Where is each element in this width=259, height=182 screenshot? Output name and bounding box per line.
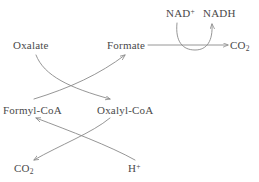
- node-formate: Formate: [107, 40, 145, 51]
- node-nad-plus: NAD+: [166, 8, 195, 19]
- arrow-layer: [0, 0, 259, 182]
- node-oxalyl-coa: Oxalyl-CoA: [97, 105, 153, 116]
- edge-oxalyl-coa-to-co2: [34, 118, 110, 160]
- nad-text: NAD: [166, 7, 190, 19]
- node-h-plus: H+: [128, 163, 140, 174]
- h-text: H: [128, 162, 136, 174]
- node-co2-bottom: CO2: [14, 163, 33, 175]
- co2-bottom-subscript: 2: [30, 167, 34, 176]
- edge-hplus-to-oxalyl-coa: [36, 118, 135, 160]
- edge-formyl-coa-to-formate: [34, 55, 125, 99]
- co2-top-text: CO: [230, 39, 246, 51]
- node-nadh: NADH: [203, 8, 236, 19]
- node-oxalate: Oxalate: [13, 40, 49, 51]
- pathway-diagram: Oxalate Formate CO2 NAD+ NADH Formyl-CoA…: [0, 0, 259, 182]
- edge-oxalate-to-oxalyl-coa: [36, 55, 110, 99]
- h-superscript: +: [136, 162, 140, 171]
- node-co2-top: CO2: [230, 40, 249, 52]
- co2-bottom-text: CO: [14, 162, 30, 174]
- nad-superscript: +: [190, 7, 194, 16]
- co2-top-subscript: 2: [246, 44, 250, 53]
- node-formyl-coa: Formyl-CoA: [3, 105, 62, 116]
- edge-nad-to-nadh: [177, 23, 212, 50]
